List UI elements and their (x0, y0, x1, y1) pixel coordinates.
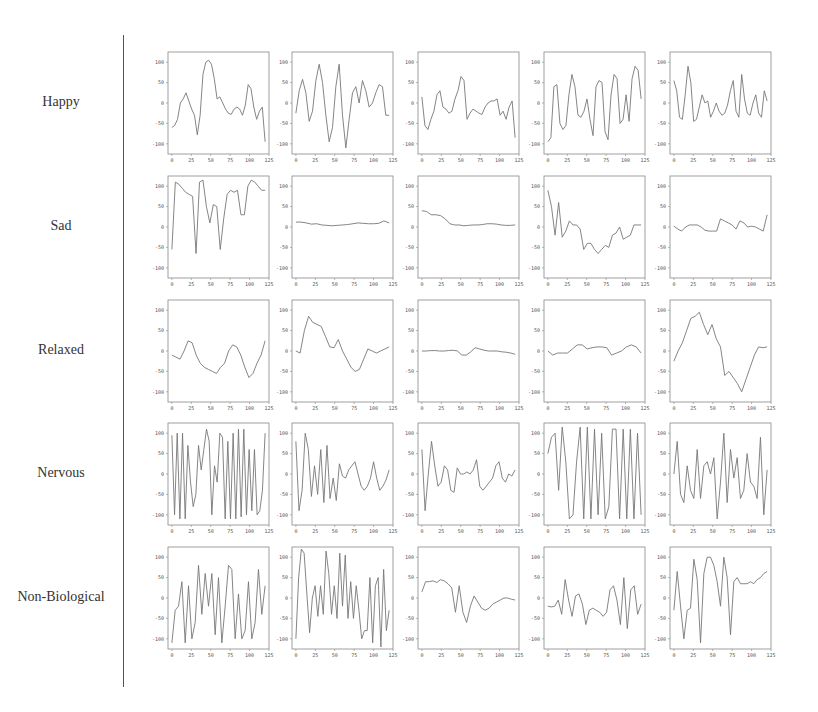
line-plot: 100500-50-1000255075100125 (670, 547, 771, 649)
y-tick-label: 100 (155, 307, 164, 313)
x-tick-label: 100 (369, 281, 378, 287)
panel-happy-1: 100500-50-1000255075100125 (168, 52, 292, 176)
x-tick-label: 50 (332, 405, 338, 411)
x-tick-label: 100 (621, 528, 630, 534)
panel-nervous-2: 100500-50-1000255075100125 (292, 423, 416, 547)
y-tick-label: -100 (528, 512, 540, 518)
x-tick-label: 0 (672, 528, 675, 534)
x-tick-label: 125 (388, 652, 397, 658)
x-tick-label: 100 (369, 157, 378, 163)
y-tick-label: 50 (408, 79, 414, 85)
x-tick-label: 75 (729, 405, 735, 411)
y-tick-label: 0 (411, 595, 414, 601)
x-tick-label: 50 (458, 405, 464, 411)
x-tick-label: 50 (332, 281, 338, 287)
y-tick-label: -50 (405, 244, 414, 250)
x-tick-label: 50 (710, 157, 716, 163)
y-tick-label: -100 (654, 141, 666, 147)
x-tick-label: 125 (766, 405, 775, 411)
y-tick-label: 0 (161, 348, 164, 354)
line-plot: 100500-50-1000255075100125 (544, 52, 645, 154)
y-tick-label: 0 (161, 224, 164, 230)
x-tick-label: 100 (245, 157, 254, 163)
x-tick-label: 125 (264, 405, 273, 411)
y-tick-label: 100 (279, 183, 288, 189)
y-tick-label: -100 (528, 389, 540, 395)
y-tick-label: -100 (402, 141, 414, 147)
x-tick-label: 125 (514, 652, 523, 658)
y-tick-label: -50 (279, 368, 288, 374)
plot-frame (418, 423, 519, 525)
x-tick-label: 125 (514, 157, 523, 163)
line-plot: 100500-50-1000255075100125 (418, 52, 519, 154)
panel-nervous-1: 100500-50-1000255075100125 (168, 423, 292, 547)
x-tick-label: 0 (420, 157, 423, 163)
x-tick-label: 100 (369, 652, 378, 658)
x-tick-label: 125 (514, 405, 523, 411)
x-tick-label: 0 (170, 528, 173, 534)
y-tick-label: 0 (663, 595, 666, 601)
x-tick-label: 75 (351, 405, 357, 411)
x-tick-label: 0 (170, 281, 173, 287)
y-tick-label: -100 (402, 389, 414, 395)
panel-relaxed-1: 100500-50-1000255075100125 (168, 300, 292, 424)
x-tick-label: 125 (264, 652, 273, 658)
x-tick-label: 0 (294, 528, 297, 534)
y-tick-label: -50 (155, 615, 164, 621)
x-tick-label: 100 (747, 405, 756, 411)
signal-line (172, 60, 265, 142)
x-tick-label: 100 (245, 528, 254, 534)
panel-sad-2: 100500-50-1000255075100125 (292, 176, 416, 300)
x-tick-label: 50 (710, 405, 716, 411)
x-tick-label: 25 (438, 652, 444, 658)
x-tick-label: 125 (766, 281, 775, 287)
x-tick-label: 75 (603, 652, 609, 658)
y-tick-label: 50 (282, 450, 288, 456)
x-tick-label: 25 (690, 528, 696, 534)
y-tick-label: -100 (152, 389, 164, 395)
x-tick-label: 50 (332, 157, 338, 163)
x-tick-label: 75 (603, 281, 609, 287)
row-label-sad: Sad (0, 218, 122, 234)
y-tick-label: 0 (537, 595, 540, 601)
x-tick-label: 50 (584, 652, 590, 658)
y-tick-label: -50 (531, 615, 540, 621)
plot-frame (418, 52, 519, 154)
signal-line (674, 557, 767, 643)
y-tick-label: 50 (534, 203, 540, 209)
y-tick-label: 50 (158, 327, 164, 333)
y-tick-label: -50 (405, 120, 414, 126)
line-plot: 100500-50-1000255075100125 (292, 52, 393, 154)
x-tick-label: 75 (729, 652, 735, 658)
x-tick-label: 75 (351, 652, 357, 658)
x-tick-label: 25 (312, 157, 318, 163)
y-tick-label: -50 (405, 615, 414, 621)
signal-line (296, 549, 389, 647)
x-tick-label: 50 (458, 528, 464, 534)
x-tick-label: 75 (603, 157, 609, 163)
row-label-happy: Happy (0, 94, 122, 110)
x-tick-label: 25 (438, 157, 444, 163)
y-tick-label: -100 (402, 512, 414, 518)
y-tick-label: 100 (657, 554, 666, 560)
x-tick-label: 75 (477, 652, 483, 658)
y-tick-label: -50 (279, 615, 288, 621)
x-tick-label: 75 (351, 281, 357, 287)
signal-line (422, 76, 515, 137)
y-tick-label: 100 (155, 430, 164, 436)
panel-happy-3: 100500-50-1000255075100125 (418, 52, 542, 176)
plot-frame (544, 300, 645, 402)
x-tick-label: 50 (584, 157, 590, 163)
line-plot: 100500-50-1000255075100125 (168, 547, 269, 649)
x-tick-label: 25 (690, 652, 696, 658)
x-tick-label: 0 (294, 281, 297, 287)
signal-line (172, 565, 265, 643)
x-tick-label: 75 (729, 528, 735, 534)
signal-line (422, 348, 515, 355)
panel-non-biological-3: 100500-50-1000255075100125 (418, 547, 542, 671)
line-plot: 100500-50-1000255075100125 (670, 300, 771, 402)
signal-line (674, 66, 767, 121)
y-tick-label: -100 (528, 141, 540, 147)
y-tick-label: 100 (279, 59, 288, 65)
x-tick-label: 50 (584, 405, 590, 411)
